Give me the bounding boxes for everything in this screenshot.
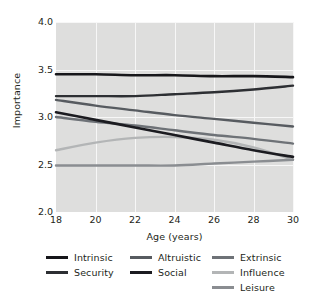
legend-item[interactable]: Extrinsic [212, 250, 285, 265]
series-line [56, 74, 293, 77]
series-line [56, 117, 293, 144]
y-tick-label: 4.0 [27, 17, 53, 27]
legend-column: ExtrinsicInfluenceLeisure [212, 250, 285, 295]
chart-legend: IntrinsicSecurityAltruisticSocialExtrins… [40, 250, 302, 302]
x-tick-label: 18 [44, 214, 68, 225]
legend-label: Altruistic [158, 252, 201, 263]
legend-swatch-icon [130, 271, 152, 273]
y-tick-label: 3.5 [27, 65, 53, 75]
y-axis-title: Importance [11, 41, 22, 161]
legend-column: AltruisticSocial [130, 250, 201, 280]
y-tick-label: 2.5 [27, 160, 53, 170]
legend-item[interactable]: Influence [212, 265, 285, 280]
x-tick-label: 28 [242, 214, 266, 225]
x-tick-label: 30 [281, 214, 305, 225]
series-line [56, 160, 293, 166]
legend-item[interactable]: Security [46, 265, 114, 280]
x-tick-label: 22 [123, 214, 147, 225]
legend-swatch-icon [46, 256, 68, 258]
series-line [56, 86, 293, 97]
legend-swatch-icon [130, 256, 152, 258]
chart-figure: Importance 2.02.53.03.54.0 1820222426283… [0, 0, 312, 306]
legend-label: Security [74, 267, 114, 278]
legend-swatch-icon [212, 271, 234, 273]
x-axis-title: Age (years) [56, 231, 293, 242]
legend-label: Social [158, 267, 187, 278]
gridline-vertical [293, 22, 294, 212]
legend-item[interactable]: Leisure [212, 280, 285, 295]
legend-item[interactable]: Intrinsic [46, 250, 114, 265]
y-tick-label: 3.0 [27, 112, 53, 122]
series-lines [56, 22, 293, 212]
legend-swatch-icon [212, 256, 234, 258]
plot-panel [56, 22, 293, 212]
legend-label: Leisure [240, 282, 275, 293]
legend-label: Influence [240, 267, 285, 278]
legend-label: Extrinsic [240, 252, 282, 263]
x-tick-label: 26 [202, 214, 226, 225]
legend-label: Intrinsic [74, 252, 113, 263]
x-tick-label: 20 [84, 214, 108, 225]
legend-swatch-icon [46, 271, 68, 273]
legend-swatch-icon [212, 286, 234, 288]
x-tick-label: 24 [163, 214, 187, 225]
legend-item[interactable]: Social [130, 265, 201, 280]
legend-item[interactable]: Altruistic [130, 250, 201, 265]
legend-column: IntrinsicSecurity [46, 250, 114, 280]
series-line [56, 112, 293, 157]
